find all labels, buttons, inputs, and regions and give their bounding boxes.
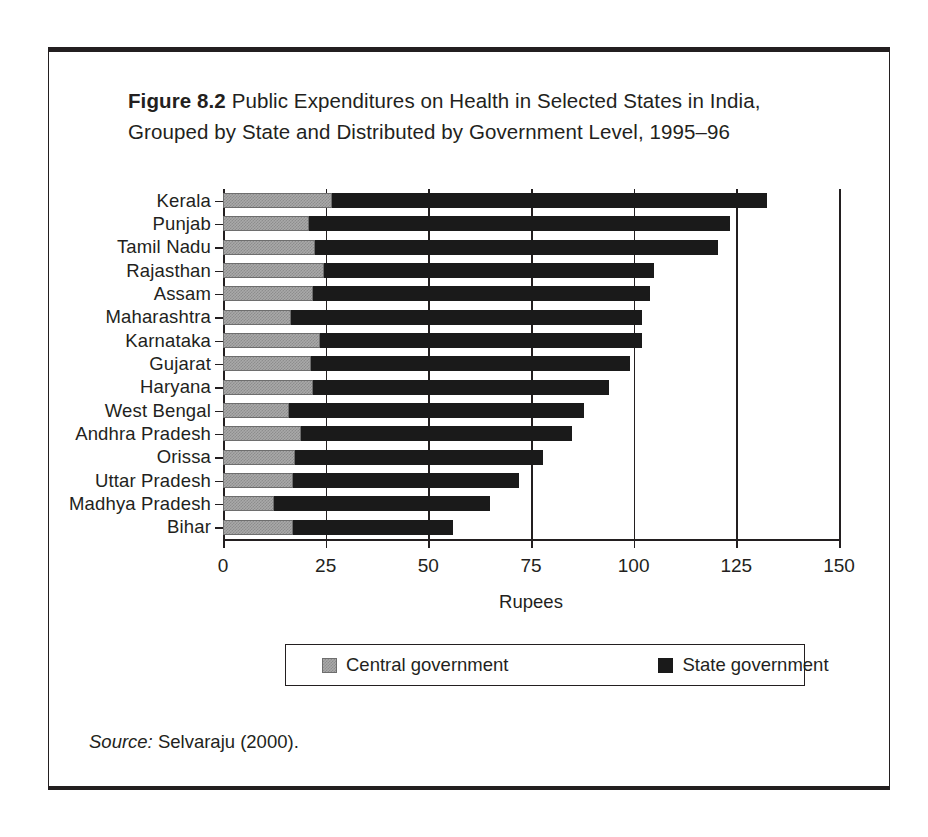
y-tick-kerala (215, 201, 223, 203)
stacked-bar (223, 240, 718, 255)
y-tick-assam (215, 294, 223, 296)
x-tick-150 (839, 539, 841, 548)
y-tick-uttar-pradesh (215, 481, 223, 483)
bar-row: Bihar (223, 516, 839, 539)
bar-segment-state-government (293, 520, 453, 535)
x-tick-25 (326, 539, 328, 548)
y-tick-punjab (215, 224, 223, 226)
y-axis-label-karnataka: Karnataka (125, 330, 211, 352)
bar-segment-central-government (223, 263, 324, 278)
y-axis-label-west-bengal: West Bengal (105, 400, 211, 422)
bar-row: Karnataka (223, 329, 839, 352)
bar-segment-central-government (223, 310, 291, 325)
bar-segment-central-government (223, 426, 301, 441)
bar-segment-central-government (223, 403, 289, 418)
bar-segment-state-government (274, 496, 490, 511)
stacked-bar (223, 333, 642, 348)
stacked-bar (223, 286, 650, 301)
y-axis-label-uttar-pradesh: Uttar Pradesh (95, 470, 211, 492)
bar-segment-state-government (313, 380, 609, 395)
bar-segment-state-government (311, 356, 629, 371)
chart-legend: Central government State government (285, 644, 805, 686)
legend-swatch-central-government (322, 658, 337, 673)
y-axis-label-assam: Assam (154, 283, 211, 305)
bar-row: Haryana (223, 376, 839, 399)
stacked-bar (223, 520, 453, 535)
bar-segment-state-government (315, 240, 717, 255)
bar-segment-state-government (289, 403, 585, 418)
y-axis-label-orissa: Orissa (157, 446, 211, 468)
y-axis-label-kerala: Kerala (157, 190, 211, 212)
x-tick-75 (531, 539, 533, 548)
bar-row: West Bengal (223, 399, 839, 422)
x-tick-125 (736, 539, 738, 548)
x-tick-label-50: 50 (418, 555, 439, 577)
bar-segment-state-government (291, 310, 642, 325)
y-tick-orissa (215, 457, 223, 459)
y-axis-label-maharashtra: Maharashtra (105, 306, 211, 328)
x-tick-label-100: 100 (618, 555, 650, 577)
y-axis-label-haryana: Haryana (140, 376, 211, 398)
stacked-bar (223, 263, 654, 278)
y-tick-tamil-nadu (215, 247, 223, 249)
y-axis-label-andhra-pradesh: Andhra Pradesh (75, 423, 211, 445)
bar-row: Kerala (223, 189, 839, 212)
y-axis-label-punjab: Punjab (152, 213, 211, 235)
bar-segment-central-government (223, 193, 332, 208)
y-tick-rajasthan (215, 271, 223, 273)
bar-row: Tamil Nadu (223, 236, 839, 259)
x-tick-label-0: 0 (218, 555, 229, 577)
figure-caption: Figure 8.2 Public Expenditures on Health… (128, 85, 828, 147)
y-tick-gujarat (215, 364, 223, 366)
bar-row: Uttar Pradesh (223, 469, 839, 492)
stacked-bar (223, 403, 584, 418)
figure-frame: Figure 8.2 Public Expenditures on Health… (48, 47, 890, 790)
y-axis-label-madhya-pradesh: Madhya Pradesh (69, 493, 211, 515)
bar-row: Orissa (223, 446, 839, 469)
legend-label-central-government: Central government (346, 654, 508, 676)
bar-row: Punjab (223, 212, 839, 235)
y-tick-bihar (215, 527, 223, 529)
stacked-bar (223, 310, 642, 325)
source-text: Selvaraju (2000). (153, 731, 299, 752)
bar-row: Assam (223, 282, 839, 305)
x-axis-title: Rupees (499, 591, 563, 613)
source-label: Source: (89, 731, 153, 752)
stacked-bar (223, 356, 630, 371)
stacked-bar (223, 450, 543, 465)
x-tick-label-125: 125 (720, 555, 752, 577)
bar-row: Rajasthan (223, 259, 839, 282)
bar-segment-state-government (309, 216, 730, 231)
y-tick-karnataka (215, 341, 223, 343)
bar-segment-state-government (301, 426, 572, 441)
bar-row: Gujarat (223, 352, 839, 375)
y-axis-label-tamil-nadu: Tamil Nadu (117, 236, 211, 258)
legend-label-state-government: State government (682, 654, 828, 676)
bar-segment-central-government (223, 356, 311, 371)
bar-segment-central-government (223, 450, 295, 465)
bar-row: Andhra Pradesh (223, 422, 839, 445)
bar-segment-central-government (223, 333, 320, 348)
chart-plot-area: KeralaPunjabTamil NaduRajasthanAssamMaha… (223, 189, 839, 539)
y-axis-label-gujarat: Gujarat (149, 353, 211, 375)
bar-segment-central-government (223, 520, 293, 535)
bar-segment-state-government (313, 286, 650, 301)
y-tick-madhya-pradesh (215, 504, 223, 506)
bar-segment-state-government (293, 473, 519, 488)
bar-segment-central-government (223, 473, 293, 488)
x-tick-label-75: 75 (520, 555, 541, 577)
y-tick-andhra-pradesh (215, 434, 223, 436)
y-axis-label-rajasthan: Rajasthan (126, 260, 211, 282)
bar-row: Maharashtra (223, 306, 839, 329)
legend-swatch-state-government (658, 658, 673, 673)
y-tick-haryana (215, 387, 223, 389)
y-tick-west-bengal (215, 411, 223, 413)
stacked-bar (223, 193, 767, 208)
bar-segment-central-government (223, 496, 274, 511)
x-tick-label-25: 25 (315, 555, 336, 577)
bar-segment-central-government (223, 240, 315, 255)
bar-segment-state-government (332, 193, 767, 208)
legend-item-state-government: State government (658, 654, 828, 676)
x-tick-50 (428, 539, 430, 548)
stacked-bar (223, 380, 609, 395)
